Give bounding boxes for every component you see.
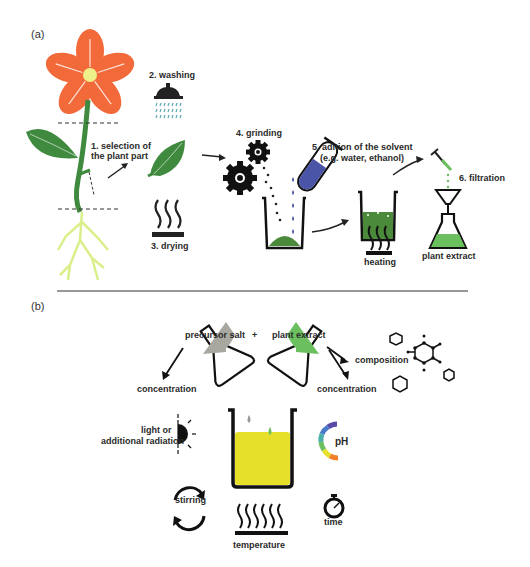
gears-icon [223,140,281,221]
concentration-right-label: concentration [317,384,377,395]
step-3-label: 3. drying [151,241,189,252]
shower-icon [154,83,183,118]
roots-icon [58,212,108,280]
reaction-beaker-icon [228,410,297,487]
extract-flask-icon [267,316,336,388]
step-1-label-line2: the plant part [91,151,148,162]
precursor-flask-icon [186,316,255,388]
plant-extract-label: plant extract [422,251,476,262]
funnel-flask-icon [430,190,466,248]
step-5-label-line1: 5. adition of the solvent [312,142,413,153]
plus-sign: + [252,330,257,341]
stem-icon [76,100,88,212]
leaf-icon [148,140,185,176]
ph-label: pH [335,436,348,447]
step-6-label: 6. filtration [459,173,505,184]
diagram-graphics [0,0,530,567]
heating-beaker-icon [358,192,398,255]
temperature-label: temperature [233,540,285,551]
step-2-label: 2. washing [149,70,195,81]
beaker-powder-icon [262,198,306,248]
heating-label: heating [364,257,396,268]
light-icon [178,414,196,454]
precursor-salt-label: precursor salt [185,330,245,341]
plant-extract-reactant-label: plant extract [272,330,326,341]
stopwatch-icon [325,494,343,517]
time-label: time [324,517,343,528]
concentration-left-label: concentration [137,384,197,395]
step-4-label: 4. grinding [236,128,282,139]
temperature-heat-icon [235,504,288,535]
dropper-icon [431,149,451,188]
light-label-line2: additional radiation [101,436,184,447]
heat-waves-icon [152,200,184,237]
stirring-icon [173,488,205,530]
flower-icon [42,29,138,120]
stirring-label: stirring [175,495,206,506]
light-label-line1: light or [141,425,172,436]
composition-label: composition [355,355,409,366]
step-5-label-line2: (e.g. water, ethanol) [320,153,404,164]
